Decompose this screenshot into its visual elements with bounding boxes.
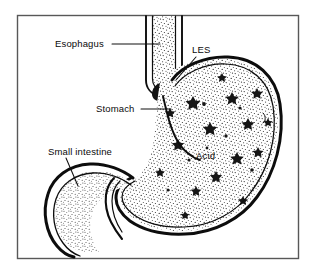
- label-esophagus: Esophagus: [55, 38, 104, 49]
- label-stomach: Stomach: [96, 103, 135, 114]
- diagram-canvas: Esophagus LES Stomach Small intestine Ac…: [0, 0, 315, 273]
- label-les: LES: [192, 44, 210, 55]
- digestive-tract-figure: Esophagus LES Stomach Small intestine Ac…: [0, 0, 315, 273]
- label-small-intestine: Small intestine: [48, 146, 112, 157]
- label-acid: Acid: [196, 150, 215, 161]
